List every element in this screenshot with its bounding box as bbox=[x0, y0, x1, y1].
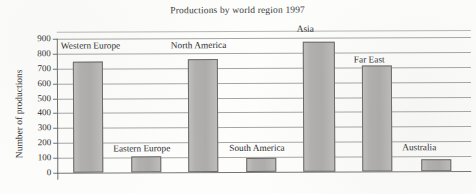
y-tick-mark bbox=[53, 158, 58, 159]
bar bbox=[246, 158, 276, 172]
y-tick-row: 400 bbox=[57, 112, 471, 114]
category-label: Australia bbox=[402, 143, 436, 152]
y-tick-label: 800 bbox=[37, 49, 51, 58]
y-tick-mark bbox=[53, 143, 58, 144]
scanned-page-plate: Productions by world region 1997 Number … bbox=[0, 0, 476, 194]
gridline bbox=[57, 97, 471, 100]
y-tick-mark bbox=[53, 128, 58, 129]
y-axis-title: Number of productions bbox=[14, 54, 24, 174]
y-tick-mark bbox=[53, 54, 58, 55]
gridline bbox=[57, 52, 471, 55]
y-tick-mark bbox=[53, 173, 58, 174]
y-tick-label: 100 bbox=[38, 153, 52, 162]
bar bbox=[362, 66, 392, 172]
y-tick-label: 200 bbox=[38, 138, 52, 147]
gridline bbox=[57, 67, 471, 70]
category-label: Western Europe bbox=[61, 41, 120, 51]
category-label: Far East bbox=[354, 55, 385, 64]
gridline bbox=[57, 126, 471, 129]
y-tick-label: 500 bbox=[37, 94, 51, 103]
y-tick-label: 300 bbox=[38, 124, 52, 133]
y-tick-label: 900 bbox=[37, 34, 51, 43]
y-tick-row: 500 bbox=[57, 97, 471, 99]
bar bbox=[421, 159, 451, 171]
category-label: Asia bbox=[297, 25, 314, 34]
gridline-layer: 9008007006005004003002001000 bbox=[57, 30, 471, 32]
bar bbox=[131, 156, 161, 172]
gridline bbox=[57, 112, 471, 115]
y-tick-label: 0 bbox=[47, 168, 52, 177]
gridline bbox=[57, 37, 471, 40]
bar-chart-figure: Productions by world region 1997 Number … bbox=[0, 0, 476, 194]
chart-title: Productions by world region 1997 bbox=[0, 4, 476, 16]
y-tick-mark bbox=[53, 83, 58, 84]
y-tick-row: 700 bbox=[57, 67, 471, 69]
y-tick-row: 800 bbox=[57, 52, 471, 54]
y-tick-mark bbox=[53, 68, 58, 69]
bar bbox=[73, 62, 103, 173]
category-label: South America bbox=[229, 144, 285, 154]
category-label: North America bbox=[171, 41, 227, 51]
y-tick-mark bbox=[53, 39, 58, 40]
y-tick-label: 400 bbox=[38, 109, 52, 118]
category-label: Eastern Europe bbox=[113, 144, 170, 154]
y-tick-label: 600 bbox=[37, 79, 51, 88]
y-tick-label: 700 bbox=[37, 64, 51, 73]
gridline bbox=[57, 82, 471, 85]
y-tick-mark bbox=[53, 98, 58, 99]
plot-area: 9008007006005004003002001000 Western Eur… bbox=[57, 30, 472, 180]
y-tick-row: 900 bbox=[57, 37, 471, 39]
y-tick-row: 600 bbox=[57, 82, 471, 84]
bar bbox=[188, 59, 218, 172]
bar bbox=[303, 42, 335, 172]
y-tick-mark bbox=[53, 113, 58, 114]
top-rule bbox=[57, 30, 471, 33]
y-tick-row: 300 bbox=[57, 126, 471, 128]
